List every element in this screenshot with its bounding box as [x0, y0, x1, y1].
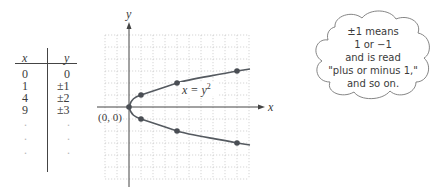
callout-line: "plus or minus 1,"	[318, 64, 428, 77]
point-1-1	[138, 92, 144, 98]
y-axis-label: y	[125, 7, 132, 21]
equation-label: x = y2	[181, 82, 211, 97]
point-9-neg3	[234, 140, 240, 146]
point-4-2	[174, 80, 180, 86]
callout-line: 1 or −1	[318, 38, 428, 51]
point-0-0	[126, 104, 132, 110]
axes	[97, 26, 261, 187]
figure: x y 0 0 1 ±1 4 ±2 9 ±3 . . . . . .	[0, 0, 446, 196]
point-1-neg1	[138, 116, 144, 122]
curve-lower-branch	[129, 107, 250, 145]
point-4-neg2	[174, 128, 180, 134]
x-axis-label: x	[267, 100, 274, 114]
callout-line: and so on.	[318, 77, 428, 90]
origin-label: (0, 0)	[98, 111, 122, 124]
y-axis-arrow-icon	[127, 22, 132, 29]
x-axis-arrow-icon	[258, 105, 265, 110]
callout-line: and is read	[318, 51, 428, 64]
callout-line: ±1 means	[318, 25, 428, 38]
point-9-3	[234, 68, 240, 74]
